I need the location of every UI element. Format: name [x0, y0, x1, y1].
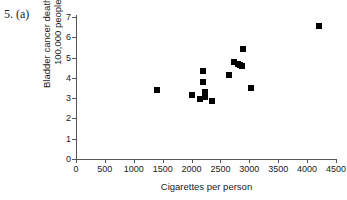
data-point-marker — [240, 46, 246, 52]
x-axis-tick — [105, 159, 106, 163]
x-axis-tick — [249, 159, 250, 163]
data-point-marker — [239, 63, 245, 69]
x-axis-tick — [336, 159, 337, 163]
x-axis-tick — [163, 159, 164, 163]
x-axis-tick — [134, 159, 135, 163]
x-axis-line: 050010001500200025003000350040004500 — [75, 159, 337, 160]
y-axis-label: Bladder cancer deaths per 100,000 people — [41, 0, 63, 88]
data-point-marker — [202, 94, 208, 100]
x-axis-tick — [76, 159, 77, 163]
x-axis-tick — [220, 159, 221, 163]
data-point-marker — [226, 72, 232, 78]
data-point-marker — [316, 23, 322, 29]
data-point-marker — [200, 79, 206, 85]
x-axis-tick-label: 0 — [73, 165, 78, 174]
x-axis-tick — [192, 159, 193, 163]
x-axis-tick-label: 1500 — [153, 165, 173, 174]
x-axis-label: Cigarettes per person — [76, 181, 337, 192]
figure-panel: 5. (a) 01234567 050010001500200025003000… — [0, 0, 347, 200]
x-axis-tick-label: 4000 — [297, 165, 317, 174]
x-axis-tick — [307, 159, 308, 163]
x-axis-tick-label: 500 — [97, 165, 112, 174]
y-axis-label-wrapper: Bladder cancer deaths per 100,000 people — [0, 0, 200, 142]
y-axis-tick-label: 0 — [66, 155, 71, 164]
x-axis-tick-label: 4500 — [326, 165, 346, 174]
data-point-marker — [209, 98, 215, 104]
data-point-marker — [200, 68, 206, 74]
x-axis-tick-label: 2000 — [182, 165, 202, 174]
x-axis-tick-label: 2500 — [210, 165, 230, 174]
x-axis-tick-label: 3000 — [239, 165, 259, 174]
y-axis-label-line2: 100,000 people — [52, 0, 63, 88]
x-axis-tick — [278, 159, 279, 163]
y-axis-label-line1: Bladder cancer deaths per — [41, 0, 52, 88]
x-axis-tick-label: 1000 — [124, 165, 144, 174]
x-axis-tick-label: 3500 — [268, 165, 288, 174]
data-point-marker — [248, 85, 254, 91]
